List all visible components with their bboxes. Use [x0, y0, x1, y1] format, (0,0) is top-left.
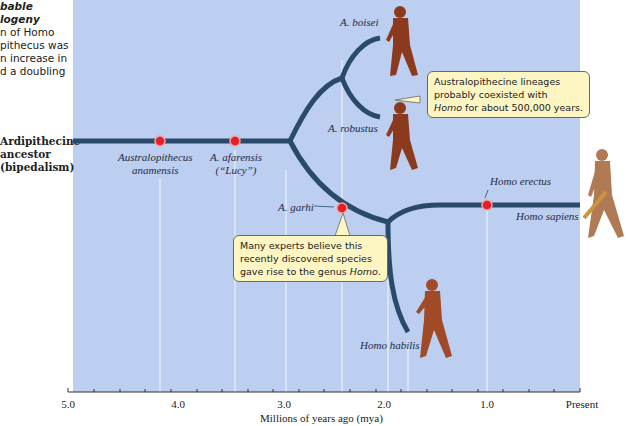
- callout-garhi: Many experts believe this recently disco…: [233, 235, 388, 282]
- node-anamensis: [155, 136, 165, 146]
- label-afarensis-line1: A. afarensis: [210, 151, 262, 164]
- label-boisei: A. boisei: [340, 16, 379, 28]
- node-garhi: [337, 203, 347, 213]
- label-anamensis-line2: anamensis: [118, 164, 193, 177]
- label-habilis: Homo habilis: [360, 339, 420, 351]
- hominin-boisei-icon: [386, 6, 418, 76]
- tick-4: 4.0: [171, 398, 185, 410]
- callout-coexist-homo: Homo: [434, 102, 462, 113]
- homo-sapiens-figure-icon: [584, 149, 624, 238]
- label-afarensis-line2: (“Lucy”): [210, 164, 262, 177]
- hominin-habilis-icon: [416, 279, 452, 358]
- tick-3: 3.0: [277, 398, 291, 410]
- node-afarensis: [230, 136, 240, 146]
- callout-coexistence: Australopithecine lineages probably coex…: [427, 71, 590, 118]
- node-erectus: [482, 200, 492, 210]
- callout-garhi-homo: Homo: [350, 266, 378, 277]
- tick-present: Present: [566, 398, 598, 410]
- tick-2: 2.0: [377, 398, 391, 410]
- label-afarensis: A. afarensis (“Lucy”): [210, 151, 262, 177]
- callout-garhi-period: .: [378, 266, 381, 277]
- callout-coexist-line1: Australopithecine lineages: [434, 75, 583, 88]
- callout-garhi-line2: recently discovered species: [240, 252, 381, 265]
- label-sapiens: Homo sapiens: [516, 210, 579, 222]
- hominin-robustus-icon: [386, 102, 418, 170]
- callout-coexist-line2: probably coexisted with: [434, 88, 583, 101]
- label-garhi: A. garhi: [278, 201, 314, 213]
- tick-1: 1.0: [480, 398, 494, 410]
- callout-coexist-rest: for about 500,000 years.: [462, 102, 583, 113]
- axis-ticks: [68, 388, 580, 392]
- callout-garhi-line3: gave rise to the genus Homo.: [240, 265, 381, 278]
- callout-garhi-text: gave rise to the genus: [240, 266, 350, 277]
- axis-title: Millions of years ago (mya): [260, 412, 383, 424]
- label-anamensis: Australopithecus anamensis: [118, 151, 193, 177]
- tick-5: 5.0: [61, 398, 75, 410]
- callout-coexist-line3: Homo for about 500,000 years.: [434, 101, 583, 114]
- label-anamensis-line1: Australopithecus: [118, 151, 193, 164]
- label-erectus: Homo erectus: [490, 175, 551, 187]
- species-nodes: [155, 136, 492, 213]
- callout-garhi-line1: Many experts believe this: [240, 239, 381, 252]
- label-robustus: A. robustus: [328, 122, 378, 134]
